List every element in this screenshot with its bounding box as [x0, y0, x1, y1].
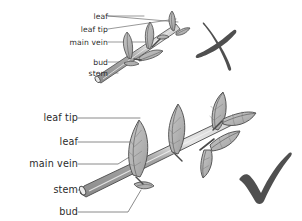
bottom-twig-illustration — [0, 0, 302, 221]
worksheet-canvas: leaf leaf tip main vein bud stem — [0, 0, 302, 221]
bottom-label-main-vein: main vein — [29, 159, 78, 169]
bottom-leaf-4 — [223, 112, 256, 126]
check-mark — [239, 153, 291, 204]
bottom-label-leaf-tip: leaf tip — [43, 113, 78, 123]
leader-line-main-vein — [78, 156, 131, 164]
bottom-bud — [134, 182, 154, 189]
bottom-label-stem: stem — [53, 185, 78, 195]
bottom-label-bud: bud — [59, 207, 78, 217]
bottom-label-leaf: leaf — [60, 137, 78, 147]
bottom-leaf-6 — [201, 150, 212, 178]
